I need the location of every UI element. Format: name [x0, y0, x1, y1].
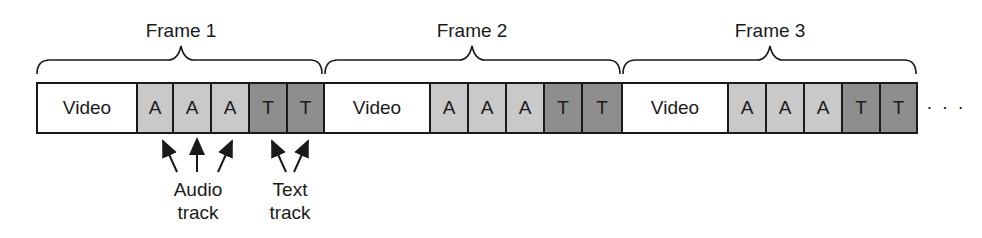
frame-1-audio-cell: A — [172, 82, 212, 134]
frame-2-label: Frame 2 — [437, 20, 508, 42]
frame-2-text-cell: T — [581, 82, 623, 134]
frame-3-text-cell: T — [841, 82, 881, 134]
frame-1-label: Frame 1 — [146, 20, 217, 42]
frame-1-text-cell: T — [286, 82, 325, 134]
frame-3-brace — [623, 46, 916, 74]
frame-3-video-cell: Video — [621, 82, 729, 134]
frame-1-video-cell: Video — [36, 82, 138, 134]
audio-track-label: Audio track — [174, 178, 223, 224]
audio-track-line1: Audio — [174, 178, 223, 201]
frame-1-audio-cell: A — [136, 82, 174, 134]
frame-2-brace — [325, 46, 620, 74]
text-track-label: Text track — [269, 178, 310, 224]
frame-1-brace — [37, 46, 322, 74]
frame-2-text-cell: T — [543, 82, 583, 134]
audio-track-line2: track — [174, 201, 223, 224]
frame-1-text-cell: T — [248, 82, 288, 134]
text-track-line1: Text — [269, 178, 310, 201]
frame-1-audio-cell: A — [210, 82, 250, 134]
text-track-line2: track — [269, 201, 310, 224]
audio-arrows — [163, 139, 232, 172]
frame-3-audio-cell: A — [727, 82, 767, 134]
frame-2-audio-cell: A — [467, 82, 507, 134]
continuation-ellipsis: · · · — [926, 96, 966, 118]
frame-2-audio-cell: A — [505, 82, 545, 134]
frame-3-label: Frame 3 — [735, 20, 806, 42]
text-arrows — [272, 141, 308, 172]
frame-2-audio-cell: A — [429, 82, 469, 134]
frame-3-audio-cell: A — [803, 82, 843, 134]
frame-3-text-cell: T — [879, 82, 918, 134]
frame-3-audio-cell: A — [765, 82, 805, 134]
frame-2-video-cell: Video — [323, 82, 431, 134]
